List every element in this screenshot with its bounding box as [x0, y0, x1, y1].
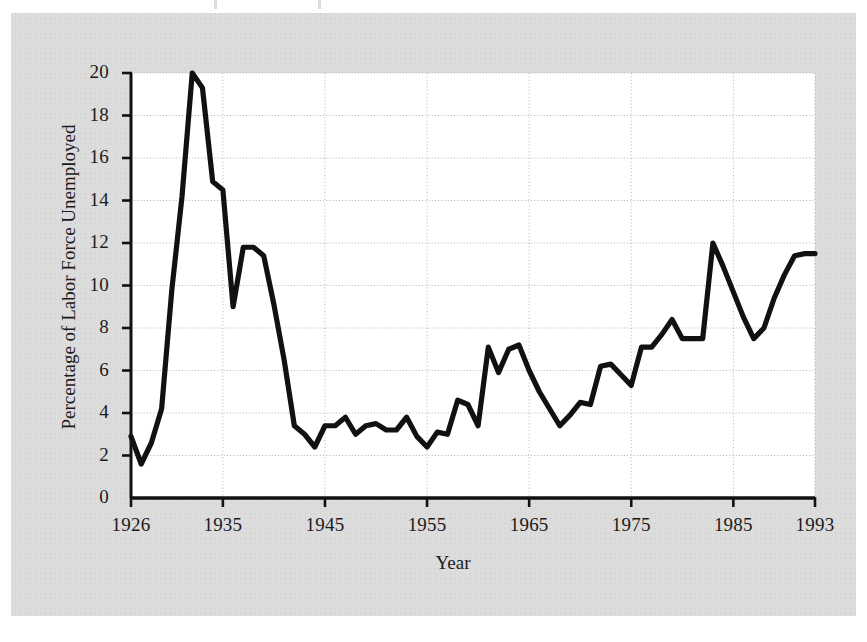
y-tick-label: 2 [75, 444, 109, 466]
y-tick-label: 6 [75, 359, 109, 381]
x-tick-label: 1955 [392, 514, 462, 536]
y-tick-label: 0 [75, 486, 109, 508]
unemployment-line-chart [0, 0, 867, 642]
x-tick-label: 1975 [596, 514, 666, 536]
x-tick-label: 1945 [290, 514, 360, 536]
x-tick-label: 1935 [188, 514, 258, 536]
x-tick-label: 1965 [494, 514, 564, 536]
x-tick-label: 1926 [96, 514, 166, 536]
axis-tick-marks [122, 73, 815, 507]
y-tick-label: 4 [75, 401, 109, 423]
y-tick-label: 12 [75, 231, 109, 253]
y-tick-label: 14 [75, 189, 109, 211]
figure-root: 20181614121086420 1926193519451955196519… [0, 0, 867, 642]
y-tick-label: 10 [75, 274, 109, 296]
y-tick-label: 8 [75, 316, 109, 338]
x-axis-title: Year [398, 552, 508, 574]
x-tick-label: 1993 [780, 514, 850, 536]
y-axis-title: Percentage of Labor Force Unemployed [58, 77, 80, 477]
y-tick-label: 18 [75, 104, 109, 126]
unemployment-series-line [131, 73, 815, 464]
y-tick-label: 16 [75, 146, 109, 168]
x-tick-label: 1985 [698, 514, 768, 536]
y-tick-label: 20 [75, 61, 109, 83]
